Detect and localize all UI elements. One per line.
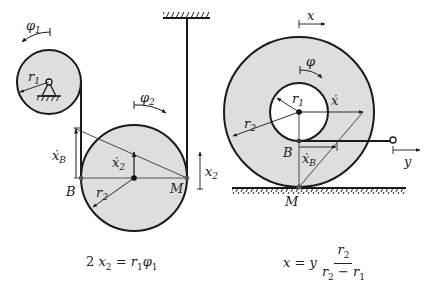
x2-displacement-arrow <box>197 152 203 189</box>
point-M <box>297 185 302 190</box>
label-x: x <box>307 8 315 23</box>
diagram-canvas: r1 φ1 ẋB ẋ2 r2 B M <box>0 0 434 285</box>
point-M <box>185 176 190 181</box>
ceiling-support <box>163 12 210 18</box>
eq-var: φ <box>143 254 152 269</box>
eq-sub: 2 <box>328 271 334 281</box>
eq-equals: = <box>294 255 305 270</box>
eq-var: y <box>310 255 317 270</box>
eq-minus: − <box>338 264 349 279</box>
label-phi2: φ2 <box>140 90 155 107</box>
left-pulley-system: r1 φ1 ẋB ẋ2 r2 B M <box>17 12 218 231</box>
eq-equals: = <box>116 254 127 269</box>
point-B <box>297 139 302 144</box>
eq-var: x <box>98 254 105 269</box>
label-y: y <box>403 154 412 169</box>
label-phi: φ <box>306 54 316 69</box>
equation-left: 2 x2 = r1φ1 <box>86 254 157 272</box>
eq-denominator: r2 − r1 <box>319 264 368 284</box>
right-rolling-spool: ẋ ẋB B M r1 r2 x φ <box>224 8 420 209</box>
y-displacement-arrow <box>393 146 420 154</box>
eq-sub: 1 <box>152 262 158 272</box>
point-B <box>79 176 84 181</box>
label-x-dot: ẋ <box>331 93 339 108</box>
rod-end-joint <box>390 137 396 143</box>
label-M: M <box>284 194 299 209</box>
label-B: B <box>282 145 293 160</box>
ground-surface <box>232 188 406 194</box>
label-B: B <box>65 184 76 199</box>
label-M: M <box>169 181 184 196</box>
eq-sub: 2 <box>106 262 112 272</box>
label-xB-dot: ẋB <box>52 148 66 165</box>
eq-sub: 2 <box>344 250 350 260</box>
mechanics-figure: r1 φ1 ẋB ẋ2 r2 B M <box>0 0 434 285</box>
label-x2: x2 <box>205 164 218 181</box>
label-phi1: φ1 <box>26 18 41 35</box>
eq-numerator: r2 <box>334 243 352 264</box>
eq-fraction: r2r2 − r1 <box>319 243 368 283</box>
eq-var: x <box>283 255 290 270</box>
equation-right: x = yr2r2 − r1 <box>283 243 368 283</box>
eq-coef: 2 <box>86 254 94 269</box>
eq-sub: 1 <box>359 271 365 281</box>
